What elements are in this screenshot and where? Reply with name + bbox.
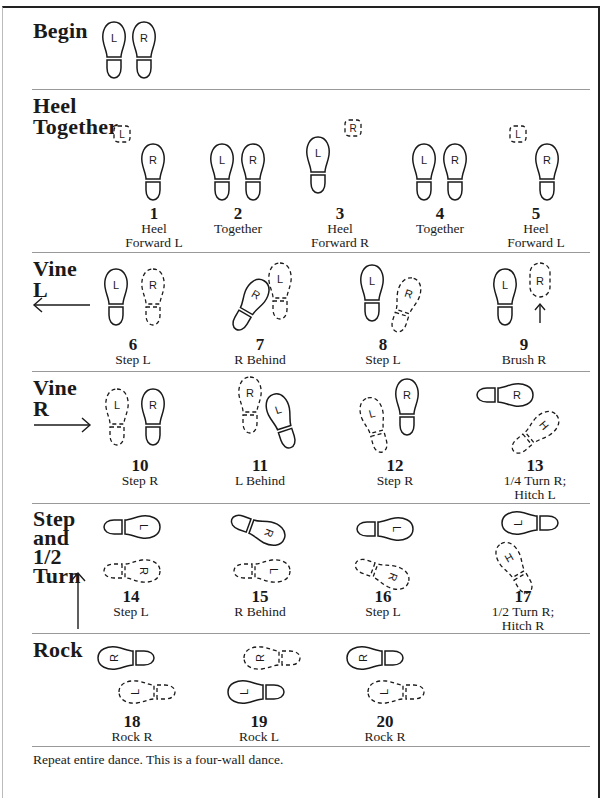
svg-text:R: R <box>254 654 266 662</box>
svg-text:R: R <box>536 275 544 287</box>
svg-text:R: R <box>513 389 521 401</box>
begin-feet-figure: L R <box>100 20 160 82</box>
svg-text:R: R <box>149 399 157 411</box>
svg-text:L: L <box>502 279 508 291</box>
svg-text:R: R <box>108 654 120 662</box>
svg-text:L: L <box>378 689 390 695</box>
arrow-left-icon <box>34 298 90 312</box>
svg-text:L: L <box>114 399 120 411</box>
step-8: 8Step L <box>333 336 433 367</box>
step-9: 9Brush R <box>474 336 574 367</box>
right-foot-icon: R <box>444 144 466 200</box>
step-20: 20Rock R <box>335 713 435 744</box>
svg-text:L: L <box>113 279 119 291</box>
divider <box>32 503 590 504</box>
left-foot-icon: L <box>103 22 125 78</box>
svg-text:L: L <box>515 129 521 140</box>
step-16: 16Step L <box>333 588 433 619</box>
left-foot-icon: L <box>307 137 329 193</box>
step-7: 7R Behind <box>210 336 310 367</box>
svg-text:L: L <box>315 147 321 159</box>
svg-text:R: R <box>138 567 150 575</box>
heel-dash-l-icon: L <box>114 126 130 142</box>
svg-text:L: L <box>138 524 150 530</box>
right-foot-icon: R <box>133 22 155 78</box>
svg-text:L: L <box>391 526 403 532</box>
svg-text:L: L <box>277 273 283 285</box>
svg-text:R: R <box>249 154 257 166</box>
svg-text:L: L <box>512 520 524 526</box>
svg-text:L: L <box>111 32 117 44</box>
heel-together-figures: L R L R L R L R L R <box>0 120 604 210</box>
svg-text:R: R <box>149 154 157 166</box>
svg-text:R: R <box>149 279 157 291</box>
heel-dash-l-icon: L <box>510 126 526 142</box>
svg-text:L: L <box>238 689 250 695</box>
divider <box>32 89 590 90</box>
step-17: 171/2 Turn R;Hitch R <box>473 588 573 633</box>
step-10: 10Step R <box>90 457 190 488</box>
divider <box>32 746 590 747</box>
vine-r-figures: L R R L L R R H <box>0 375 604 465</box>
divider <box>32 371 590 372</box>
vine-l-figures: L R R L L R L R <box>0 255 604 345</box>
heel-dash-r-icon: R <box>345 120 361 136</box>
step-3: 3HeelForward R <box>290 205 390 250</box>
svg-text:L: L <box>219 154 225 166</box>
svg-text:R: R <box>349 123 356 134</box>
step-4: 4Together <box>390 205 490 236</box>
section-title-begin: Begin <box>33 20 88 41</box>
svg-text:R: R <box>543 154 551 166</box>
footer-note: Repeat entire dance. This is a four-wall… <box>33 752 283 768</box>
step-11: 11L Behind <box>210 457 310 488</box>
svg-text:R: R <box>246 387 254 399</box>
step-15: 15R Behind <box>210 588 310 619</box>
step-6: 6Step L <box>83 336 183 367</box>
svg-text:L: L <box>268 568 280 574</box>
step-5: 5HeelForward L <box>486 205 586 250</box>
step-13: 131/4 Turn R;Hitch L <box>485 457 585 502</box>
rock-figures: R L R L R L <box>0 640 604 715</box>
svg-text:L: L <box>421 154 427 166</box>
svg-text:R: R <box>357 654 369 662</box>
right-foot-icon: R <box>536 144 558 200</box>
svg-text:L: L <box>129 689 141 695</box>
right-foot-icon: R <box>142 144 164 200</box>
svg-text:R: R <box>451 154 459 166</box>
divider <box>32 633 590 634</box>
step-19: 19Rock L <box>209 713 309 744</box>
svg-text:R: R <box>140 32 148 44</box>
step-18: 18Rock R <box>82 713 182 744</box>
svg-text:R: R <box>403 389 411 401</box>
svg-text:L: L <box>369 275 375 287</box>
step-2: 2Together <box>188 205 288 236</box>
right-foot-icon: R <box>242 144 264 200</box>
arrow-right-icon <box>34 418 90 432</box>
left-foot-icon: L <box>211 144 233 200</box>
left-foot-icon: L <box>413 144 435 200</box>
step-12: 12Step R <box>345 457 445 488</box>
arrow-up-icon <box>535 304 545 323</box>
svg-text:L: L <box>119 129 125 140</box>
step-14: 14Step L <box>81 588 181 619</box>
divider <box>32 252 590 253</box>
